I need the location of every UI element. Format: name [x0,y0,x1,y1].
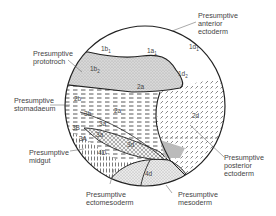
region-label-2a-top: 2a [137,83,144,90]
region-label-1b2: 1b2 [90,65,100,74]
region-label-3b: 3b [84,110,91,117]
region-label-3A: 3A [79,135,87,142]
label-midgut: Presumptive midgut [29,149,69,165]
region-label-3a-upper: 3a [99,120,106,127]
region-prototroch [60,52,183,92]
region-label-3B: 3B [72,124,80,131]
region-label-2b: 2b [74,95,81,102]
region-label-3a-lower: 3a [96,131,103,138]
region-label-4D: 4D [98,149,106,156]
region-label-1b1: 1b1 [101,45,111,54]
label-mesoderm: Presumptive mesoderm [178,191,218,207]
region-label-1d1: 1d1 [189,43,199,52]
label-anterior-ectoderm: Presumptive anterior ectoderm [198,12,238,36]
region-label-1d2: 1d2 [178,70,188,79]
region-label-2d: 2d [192,112,199,119]
region-label-3d: 3d [127,141,134,148]
region-label-4d: 4d [145,170,152,177]
label-ectomesoderm: Presumptive ectomesoderm [86,191,134,207]
region-label-1a1: 1a1 [147,47,157,56]
label-prototroch: Presumptive prototroch [33,50,73,66]
region-label-2a-mid: 2a [114,107,121,114]
label-stomadaeum: Presumptive stomadaeum [14,97,56,113]
label-posterior-ectoderm: Presumptive posterior ectoderm [224,154,264,178]
